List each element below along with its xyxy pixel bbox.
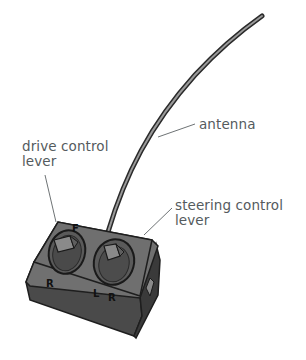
marking-steer-left: L bbox=[93, 288, 100, 299]
label-steering-control-lever: steering control lever bbox=[175, 198, 283, 228]
leader-line-steering-lever bbox=[144, 208, 172, 235]
label-antenna: antenna bbox=[199, 117, 256, 132]
marking-steer-right: R bbox=[108, 292, 116, 303]
controller-box: F R L R bbox=[26, 222, 160, 338]
label-steering-control-lever-line1: steering control bbox=[175, 198, 283, 213]
label-steering-control-lever-line2: lever bbox=[175, 213, 283, 228]
leader-line-drive-lever bbox=[45, 175, 56, 222]
marking-drive-reverse: R bbox=[46, 278, 54, 289]
radio-control-illustration: F R L R bbox=[0, 0, 306, 360]
marking-drive-forward: F bbox=[72, 223, 79, 234]
label-drive-control-lever-line1: drive control bbox=[22, 139, 109, 154]
label-drive-control-lever-line2: lever bbox=[22, 154, 109, 169]
leader-line-antenna bbox=[158, 124, 195, 137]
label-drive-control-lever: drive control lever bbox=[22, 139, 109, 169]
